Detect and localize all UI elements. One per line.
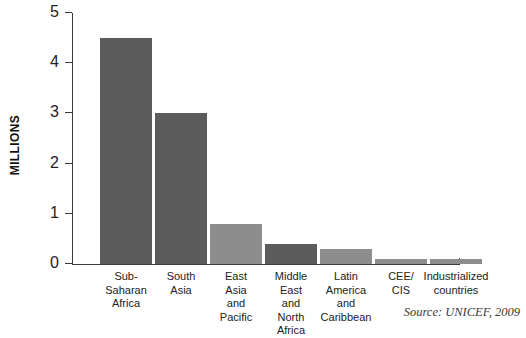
- category-label-line: and: [310, 297, 382, 311]
- x-axis-line: [72, 264, 460, 265]
- category-label-line: countries: [420, 284, 492, 298]
- y-axis-title: MILLIONS: [2, 100, 28, 190]
- source-note: Source: UNICEF, 2009: [404, 305, 520, 320]
- bar: [265, 244, 317, 264]
- y-tick-1: 1: [65, 213, 72, 214]
- y-axis-title-label: MILLIONS: [8, 115, 22, 176]
- bar: [100, 38, 152, 264]
- y-tick-label: 4: [50, 52, 59, 72]
- y-axis-line: [72, 13, 73, 265]
- y-tick-label: 5: [50, 2, 59, 22]
- category-label-line: Africa: [90, 297, 162, 311]
- bar: [320, 249, 372, 264]
- plot-area: 012345: [72, 13, 460, 265]
- category-label-line: Caribbean: [310, 311, 382, 325]
- bar: [155, 113, 207, 264]
- y-tick-label: 0: [50, 253, 59, 273]
- y-tick-label: 2: [50, 153, 59, 173]
- bar: [210, 224, 262, 264]
- y-tick-3: 3: [65, 112, 72, 113]
- y-tick-0: 0: [65, 263, 72, 264]
- bar: [430, 259, 482, 264]
- category-label-line: Africa: [255, 324, 327, 338]
- y-tick-5: 5: [65, 12, 72, 13]
- category-label-line: Industrialized: [420, 270, 492, 284]
- category-label: Industrializedcountries: [420, 270, 492, 297]
- bar: [375, 259, 427, 264]
- y-tick-label: 1: [50, 203, 59, 223]
- y-tick-2: 2: [65, 163, 72, 164]
- y-tick-label: 3: [50, 102, 59, 122]
- y-tick-4: 4: [65, 62, 72, 63]
